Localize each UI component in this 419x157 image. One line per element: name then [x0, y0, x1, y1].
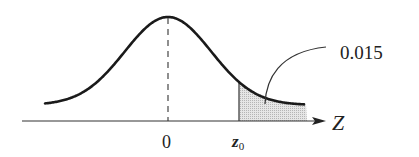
- axis-label-z: Z: [332, 110, 345, 135]
- annotation-leader-line: [265, 47, 326, 104]
- tick-label-z0-subscript: 0: [239, 140, 245, 152]
- area-value-label: 0.015: [340, 42, 383, 63]
- tick-label-z0: z0: [231, 132, 245, 152]
- normal-distribution-chart: 0.015 Z 0 z0: [0, 0, 419, 157]
- density-curve: [45, 17, 304, 104]
- tick-label-zero: 0: [162, 132, 171, 152]
